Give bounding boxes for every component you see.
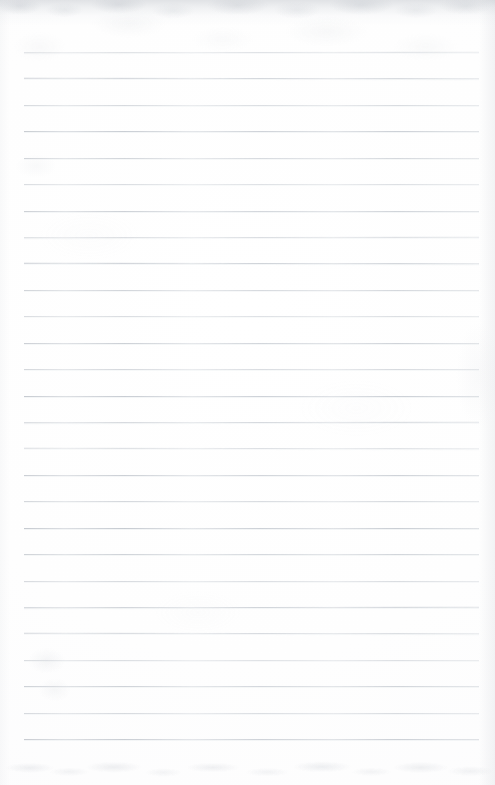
ruled-line [24, 554, 479, 555]
ruled-line [24, 422, 479, 423]
ruled-line [24, 396, 479, 397]
ruled-line [24, 211, 479, 212]
ruled-line [24, 607, 479, 608]
ruled-line [24, 105, 479, 106]
ruled-line [24, 237, 479, 238]
ruled-line [24, 290, 479, 291]
ruled-line [24, 78, 479, 79]
scanned-page [0, 0, 495, 785]
ruled-line [24, 475, 479, 476]
ruled-line [24, 369, 479, 370]
ruled-line [24, 581, 479, 582]
ruled-line [24, 158, 479, 159]
ruled-line [24, 316, 479, 317]
ruled-line [24, 263, 479, 264]
ruled-line [24, 501, 479, 502]
ruled-line [24, 52, 479, 53]
ruled-line [24, 686, 479, 687]
ruled-line [24, 131, 479, 132]
ruled-line [24, 713, 479, 714]
ruled-line [24, 184, 479, 185]
ruled-line [24, 739, 479, 740]
ruled-line [24, 660, 479, 661]
ruled-line [24, 343, 479, 344]
ruled-line [24, 448, 479, 449]
ruled-line [24, 633, 479, 634]
ruled-lines-group [0, 0, 495, 785]
ruled-line [24, 528, 479, 529]
